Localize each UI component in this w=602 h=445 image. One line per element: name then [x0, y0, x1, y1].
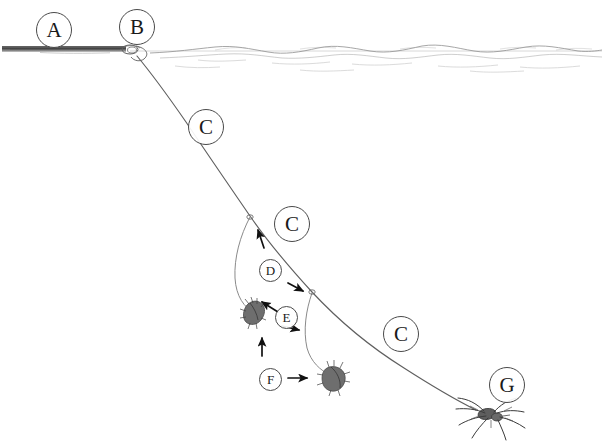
- spider-silk-diagram: A B C C C D E F G: [0, 0, 602, 445]
- callout-c-lower: C: [383, 316, 419, 352]
- spider-body: [456, 398, 525, 440]
- silk-loop-thread: [235, 217, 255, 313]
- callout-c-middle: C: [274, 206, 310, 242]
- callout-a: A: [36, 12, 72, 48]
- callout-f-label: F: [267, 373, 274, 386]
- callout-f: F: [259, 368, 282, 391]
- callout-a-label: A: [46, 20, 61, 41]
- callout-c-upper: C: [188, 109, 224, 145]
- callout-c-upper-label: C: [199, 117, 213, 138]
- arrow-up-loop: [258, 230, 264, 248]
- secondary-silk-thread: [305, 293, 330, 375]
- callout-b: B: [119, 9, 155, 45]
- callout-b-label: B: [130, 17, 144, 38]
- callout-e: E: [275, 306, 298, 329]
- prey-item-lower: [317, 360, 350, 396]
- callout-d-label: D: [266, 264, 275, 277]
- callout-e-label: E: [283, 311, 291, 324]
- callout-g: G: [489, 367, 525, 403]
- direction-arrows: [258, 230, 307, 378]
- arrow-right-loop: [288, 283, 303, 291]
- callout-g-label: G: [499, 375, 514, 396]
- callout-c-middle-label: C: [285, 214, 299, 235]
- callout-d: D: [259, 259, 282, 282]
- callout-c-lower-label: C: [394, 324, 408, 345]
